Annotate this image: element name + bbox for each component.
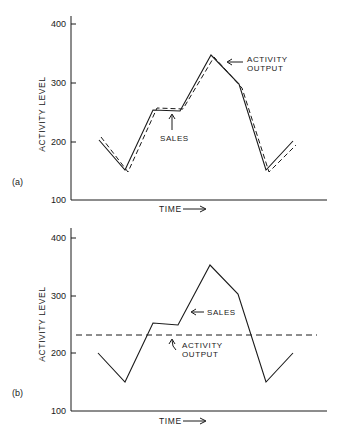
chart-b-svg: 400 300 200 100 ACTIVITY LEVEL (b) TIME … [0,220,340,434]
panel-label-b: (b) [12,388,23,398]
activity-annotation-arrow-icon [169,339,176,350]
chart-panel-b: 400 300 200 100 ACTIVITY LEVEL (b) TIME … [0,220,340,434]
activity-label-b: ACTIVITY [182,341,223,350]
sales-line-b [98,265,293,382]
activity-annotation-arrow-icon [227,59,243,65]
ytick-label-200-b: 200 [51,348,66,358]
ytick-label-200-a: 200 [51,137,66,147]
ytick-label-300-a: 300 [51,78,66,88]
x-axis-title-a: TIME [159,204,182,214]
ytick-label-400-b: 400 [51,233,66,243]
ytick-label-300-b: 300 [51,291,66,301]
activity-output-line-a [101,57,296,172]
sales-label-a: SALES [160,134,189,143]
ytick-label-100-a: 100 [51,195,66,205]
ytick-label-100-b: 100 [51,406,66,416]
output-label-b: OUTPUT [182,350,219,359]
output-label-a: OUTPUT [247,64,284,73]
sales-label-b: SALES [207,308,236,317]
chart-panel-a: 400 300 200 100 ACTIVITY LEVEL (a) TIME … [0,0,340,220]
sales-annotation-arrow-icon [169,114,175,130]
y-axis-title-b: ACTIVITY LEVEL [37,286,47,361]
x-axis-title-b: TIME [159,416,182,426]
time-arrow-icon [183,418,206,424]
time-arrow-icon [183,206,206,212]
ytick-label-400-a: 400 [51,19,66,29]
y-axis-title-a: ACTIVITY LEVEL [37,76,47,151]
chart-a-svg: 400 300 200 100 ACTIVITY LEVEL (a) TIME … [0,0,340,220]
panel-label-a: (a) [12,177,23,187]
sales-annotation-arrow-icon [191,309,204,315]
activity-label-a: ACTIVITY [247,55,288,64]
